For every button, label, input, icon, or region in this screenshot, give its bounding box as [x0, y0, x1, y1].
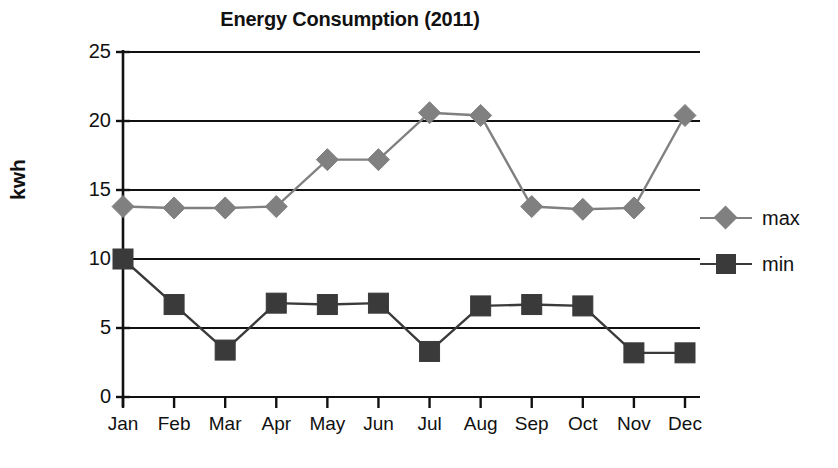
legend-swatch-max — [700, 206, 752, 230]
legend-swatch-min — [700, 252, 752, 276]
chart-legend: max min — [700, 195, 836, 287]
x-axis-tick-marks — [123, 397, 685, 408]
y-tick-5: 5 — [65, 317, 111, 337]
legend-label-max: max — [762, 208, 800, 228]
data-series-layer — [112, 102, 696, 363]
y-tick-15: 15 — [65, 179, 111, 199]
y-axis-title: kwh — [6, 159, 30, 200]
square-marker-icon — [716, 254, 736, 274]
legend-item-min[interactable]: min — [700, 241, 836, 287]
x-tick-dec: Dec — [655, 414, 715, 433]
chart-container: Energy Consumption (2011) kwh 0510152025… — [0, 0, 838, 468]
diamond-marker-icon — [713, 205, 737, 229]
y-tick-25: 25 — [65, 41, 111, 61]
gridlines — [123, 52, 700, 397]
legend-item-max[interactable]: max — [700, 195, 836, 241]
y-tick-10: 10 — [65, 248, 111, 268]
chart-title: Energy Consumption (2011) — [0, 8, 700, 31]
y-tick-0: 0 — [65, 386, 111, 406]
y-tick-20: 20 — [65, 110, 111, 130]
legend-label-min: min — [762, 254, 794, 274]
